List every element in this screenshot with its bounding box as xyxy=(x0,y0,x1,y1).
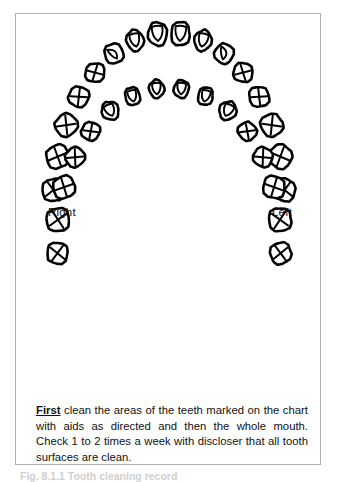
tooth-upper-4-premolar[interactable] xyxy=(64,82,94,112)
label-left: Left xyxy=(272,206,292,218)
tooth-lower-11-canine[interactable] xyxy=(215,98,240,124)
tooth-upper-5-premolar[interactable] xyxy=(81,59,109,87)
tooth-upper-3-molar[interactable] xyxy=(51,110,82,141)
tooth-upper-11-canine[interactable] xyxy=(211,41,236,66)
instructions-lead-word: First xyxy=(36,404,60,416)
tooth-lower-9-central[interactable] xyxy=(173,80,190,99)
tooth-upper-9-central[interactable] xyxy=(171,21,191,46)
tooth-lower-6-canine[interactable] xyxy=(98,98,122,123)
tooth-lower-10-lateral[interactable] xyxy=(196,86,215,107)
label-right: Right xyxy=(48,206,76,218)
arch-upper xyxy=(41,21,297,203)
tooth-lower-1-molar[interactable] xyxy=(46,241,69,266)
tooth-lower-12-premolar[interactable] xyxy=(234,118,260,143)
tooth-upper-6-canine[interactable] xyxy=(102,41,126,65)
tooth-lower-8-central[interactable] xyxy=(148,79,165,99)
tooth-upper-12-premolar[interactable] xyxy=(230,59,257,85)
tooth-lower-5-premolar[interactable] xyxy=(77,118,104,145)
instructions-text: First clean the areas of the teeth marke… xyxy=(36,403,308,465)
tooth-upper-7-lateral[interactable] xyxy=(124,28,146,53)
tooth-upper-10-lateral[interactable] xyxy=(192,28,214,54)
tooth-upper-14-molar[interactable] xyxy=(256,110,286,141)
tooth-lower-7-lateral[interactable] xyxy=(123,86,141,106)
tooth-upper-13-premolar[interactable] xyxy=(244,82,275,113)
tooth-upper-8-central[interactable] xyxy=(147,21,168,46)
instructions-body: clean the areas of the teeth marked on t… xyxy=(36,404,308,463)
tooth-lower-16-molar[interactable] xyxy=(268,241,293,267)
figure-caption: Fig. 8.1.1 Tooth cleaning record xyxy=(20,470,320,482)
